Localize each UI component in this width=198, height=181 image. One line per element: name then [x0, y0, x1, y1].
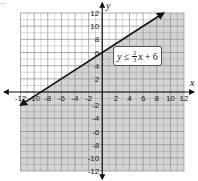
svg-text:2: 2	[95, 75, 100, 84]
svg-text:-8: -8	[44, 94, 52, 103]
svg-text:-4: -4	[71, 94, 79, 103]
svg-text:-12: -12	[88, 167, 100, 176]
svg-text:-6: -6	[58, 94, 66, 103]
label-lhs: y	[117, 51, 121, 62]
svg-text:-2: -2	[92, 101, 100, 110]
inequality-label: y ≤ 2 3 x + 6	[113, 46, 162, 66]
coordinate-plane: -12-10-8-6-4-22468101212108642-2-4-6-8-1…	[0, 0, 198, 181]
svg-text:12: 12	[180, 94, 189, 103]
svg-text:-8: -8	[92, 141, 100, 150]
y-axis-label: y	[105, 0, 111, 11]
svg-text:10: 10	[166, 94, 175, 103]
label-operator: ≤	[124, 51, 130, 62]
svg-text:4: 4	[127, 94, 132, 103]
label-numerator: 2	[132, 50, 137, 57]
label-rhs-var: x	[138, 51, 142, 62]
svg-text:-6: -6	[92, 128, 100, 137]
svg-text:-4: -4	[92, 114, 100, 123]
svg-text:-10: -10	[88, 154, 100, 163]
x-axis-label: x	[189, 77, 195, 88]
svg-text:8: 8	[155, 94, 160, 103]
svg-text:8: 8	[95, 35, 100, 44]
label-fraction: 2 3	[132, 50, 137, 63]
label-denominator: 3	[133, 57, 136, 63]
svg-text:2: 2	[114, 94, 119, 103]
label-rhs-rest: + 6	[145, 51, 158, 62]
svg-text:4: 4	[95, 62, 100, 71]
svg-text:6: 6	[141, 94, 146, 103]
svg-text:12: 12	[90, 9, 99, 18]
svg-text:10: 10	[90, 22, 99, 31]
